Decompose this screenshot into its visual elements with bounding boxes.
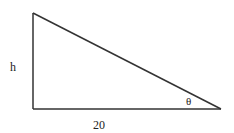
angle-label: θ (186, 95, 191, 107)
right-triangle-diagram: h 20 θ (0, 0, 234, 133)
height-label: h (10, 60, 16, 74)
base-label: 20 (93, 118, 105, 132)
hypotenuse (33, 13, 221, 109)
